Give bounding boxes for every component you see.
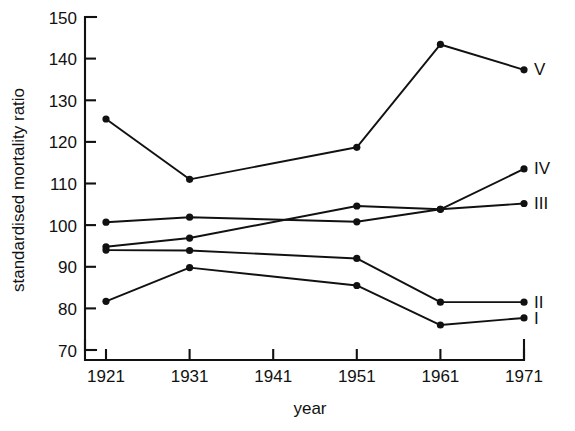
x-axis-line	[85, 340, 524, 360]
series-label-v: V	[534, 60, 546, 79]
x-tick-label: 1951	[338, 367, 376, 386]
data-point	[102, 219, 109, 226]
data-point	[520, 165, 527, 172]
y-tick-marks	[85, 17, 96, 350]
data-point	[353, 255, 360, 262]
data-point	[353, 144, 360, 151]
y-tick-label: 150	[49, 9, 77, 28]
x-axis-title: year	[293, 399, 326, 418]
series-line-iii	[106, 203, 524, 246]
x-tick-label: 1921	[87, 367, 125, 386]
y-tick-label: 140	[49, 50, 77, 69]
x-tick-label: 1941	[254, 367, 292, 386]
series-line-v	[106, 44, 524, 179]
y-tick-label: 110	[50, 175, 77, 194]
data-point	[437, 206, 444, 213]
data-point	[186, 247, 193, 254]
data-point	[437, 321, 444, 328]
data-point	[437, 299, 444, 306]
data-point	[437, 41, 444, 48]
data-point	[186, 234, 193, 241]
x-tick-label: 1931	[171, 367, 209, 386]
series-label-iii: III	[534, 194, 548, 213]
series-label-iv: IV	[534, 159, 551, 178]
data-point	[102, 298, 109, 305]
line-chart: 150 140 130 120 110 100 90 80 70 1921 19…	[0, 0, 575, 431]
y-tick-label: 70	[58, 342, 77, 361]
x-tick-label: 1961	[421, 367, 459, 386]
y-tick-label: 120	[49, 133, 77, 152]
y-tick-label: 130	[49, 92, 77, 111]
data-point	[102, 115, 109, 122]
data-point	[353, 218, 360, 225]
data-point	[520, 314, 527, 321]
data-point	[102, 247, 109, 254]
data-point	[520, 200, 527, 207]
x-tick-labels: 1921 1931 1941 1951 1961 1971	[87, 367, 543, 386]
data-point	[520, 66, 527, 73]
series-line-i	[106, 268, 524, 325]
chart-figure: 150 140 130 120 110 100 90 80 70 1921 19…	[0, 0, 575, 431]
data-point	[186, 214, 193, 221]
x-tick-label: 1971	[505, 367, 543, 386]
series-layer	[102, 41, 527, 329]
series-label-i: I	[534, 309, 539, 328]
data-point	[186, 264, 193, 271]
y-axis-title: standardised mortality ratio	[9, 88, 28, 292]
data-point	[186, 176, 193, 183]
data-point	[353, 282, 360, 289]
data-point	[353, 202, 360, 209]
y-tick-labels: 150 140 130 120 110 100 90 80 70	[49, 9, 77, 361]
series-label-layer: VIVIIIIII	[534, 60, 551, 328]
x-tick-marks	[106, 349, 524, 360]
y-tick-label: 100	[49, 217, 77, 236]
data-point	[520, 299, 527, 306]
y-tick-label: 90	[58, 258, 77, 277]
y-tick-label: 80	[58, 300, 77, 319]
